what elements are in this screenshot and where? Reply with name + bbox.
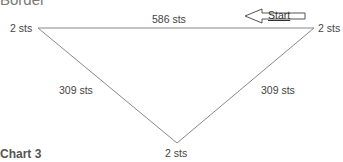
start-label: Start — [268, 9, 290, 21]
corner-label-bottom: 2 sts — [165, 147, 187, 159]
right-edge-label: 309 sts — [261, 84, 295, 96]
corner-label-top-left: 2 sts — [10, 22, 32, 34]
chart-label: Chart 3 — [0, 147, 41, 161]
left-edge-label: 309 sts — [59, 84, 93, 96]
corner-label-top-right: 2 sts — [318, 22, 340, 34]
top-edge-label: 586 sts — [152, 13, 186, 25]
